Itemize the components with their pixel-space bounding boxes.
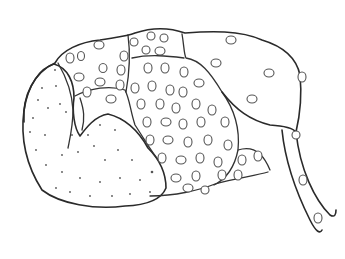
stippled-lobe-outline: [23, 64, 166, 207]
lobe-boundary-1: [58, 63, 73, 148]
illustration-svg: [0, 0, 345, 259]
lobe-boundary-6: [132, 56, 184, 58]
lobe-boundary-7: [150, 172, 268, 196]
lobe-boundary-3: [126, 35, 129, 92]
diagram-figure: [0, 0, 345, 259]
outer-outline: [24, 29, 301, 132]
lobe-boundary-4: [80, 98, 84, 130]
